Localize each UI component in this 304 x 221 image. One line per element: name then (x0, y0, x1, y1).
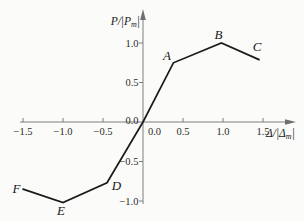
point-label-B: B (214, 27, 222, 42)
x-tick-label: −1.0 (53, 126, 72, 137)
point-label-C: C (253, 39, 262, 54)
x-axis-label: Δ/|Δm| (265, 127, 295, 141)
x-tick-label: 1.0 (216, 126, 229, 137)
x-tick-label: −1.5 (13, 126, 32, 137)
point-label-D: D (111, 178, 122, 193)
x-tick-label: 0.0 (148, 126, 161, 137)
y-axis-label: P/|Pm| (110, 15, 140, 29)
skeleton-curve-chart: −1.5−1.0−0.50.00.51.01.5−1.0−0.50.00.51.… (0, 0, 304, 221)
y-tick-label: 1.0 (125, 38, 138, 49)
point-label-E: E (56, 203, 65, 218)
y-tick-label: 0.5 (125, 77, 138, 88)
point-label-A: A (162, 48, 171, 63)
point-label-F: F (12, 181, 22, 196)
x-tick-label: 0.5 (176, 126, 189, 137)
y-tick-label: 0.0 (125, 115, 138, 126)
y-tick-label: −1.0 (119, 196, 138, 207)
x-tick-label: −0.5 (93, 126, 112, 137)
x-axis-arrow (285, 119, 296, 125)
figure-page: −1.5−1.0−0.50.00.51.01.5−1.0−0.50.00.51.… (0, 0, 304, 221)
y-axis-arrow (140, 9, 146, 20)
skeleton-curve (23, 43, 259, 203)
